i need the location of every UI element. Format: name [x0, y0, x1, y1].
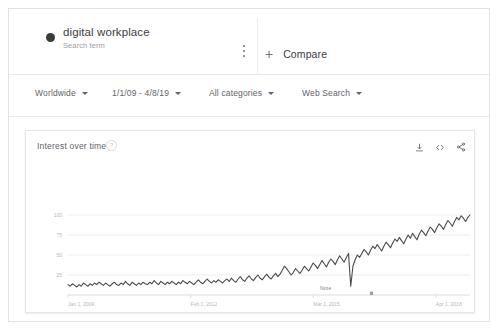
- search-term-subtitle: Search term: [63, 41, 105, 50]
- x-axis-tick-label: Apr 1, 2018: [436, 301, 462, 307]
- filter-search-type[interactable]: Web Search: [302, 88, 362, 98]
- y-axis-tick-label: 100: [54, 212, 63, 218]
- download-icon[interactable]: [415, 138, 424, 156]
- filter-date-range-label: 1/1/09 - 4/8/19: [112, 88, 169, 98]
- google-trends-page: digital workplace Search term + Compare …: [0, 0, 500, 333]
- search-term-name: digital workplace: [63, 26, 150, 38]
- chevron-down-icon: [175, 92, 181, 95]
- filter-region-label: Worldwide: [35, 88, 76, 98]
- filter-category-label: All categories: [209, 88, 262, 98]
- embed-code-icon[interactable]: [435, 138, 445, 156]
- filter-date-range[interactable]: 1/1/09 - 4/8/19: [112, 88, 181, 98]
- card-actions: [415, 138, 466, 156]
- more-vert-icon[interactable]: [237, 45, 251, 63]
- filter-search-type-label: Web Search: [302, 88, 350, 98]
- interest-over-time-card: Interest over time ?: [25, 130, 475, 313]
- compare-button[interactable]: + Compare: [265, 44, 327, 64]
- chevron-down-icon: [356, 92, 362, 95]
- search-term-card[interactable]: digital workplace Search term: [27, 17, 249, 65]
- interest-over-time-plot: 255075100Jan 1, 2009Feb 1, 2012Mar 1, 20…: [26, 161, 476, 314]
- chevron-down-icon: [268, 92, 274, 95]
- note-annotation-label: Note: [320, 285, 331, 291]
- y-axis-tick-label: 50: [56, 252, 62, 258]
- header-divider: [257, 18, 258, 74]
- filter-region[interactable]: Worldwide: [35, 88, 88, 98]
- card-header: Interest over time ?: [26, 131, 474, 161]
- filter-bar: Worldwide 1/1/09 - 4/8/19 All categories…: [9, 75, 489, 117]
- trend-line: [68, 215, 470, 287]
- x-axis-tick-label: Mar 1, 2015: [313, 301, 340, 307]
- note-marker[interactable]: [370, 292, 373, 295]
- series-color-dot: [46, 33, 55, 42]
- plus-icon: +: [265, 47, 273, 61]
- y-axis-tick-label: 25: [56, 272, 62, 278]
- share-icon[interactable]: [456, 138, 466, 156]
- x-axis-tick-label: Jan 1, 2009: [68, 301, 94, 307]
- filter-category[interactable]: All categories: [209, 88, 274, 98]
- search-term-header: digital workplace Search term + Compare: [9, 9, 489, 75]
- chevron-down-icon: [82, 92, 88, 95]
- chart-svg[interactable]: 255075100Jan 1, 2009Feb 1, 2012Mar 1, 20…: [26, 161, 476, 314]
- compare-label: Compare: [283, 48, 327, 60]
- x-axis-tick-label: Feb 1, 2012: [191, 301, 218, 307]
- help-circle-icon[interactable]: ?: [106, 140, 117, 151]
- y-axis-tick-label: 75: [56, 232, 62, 238]
- card-title: Interest over time: [37, 141, 106, 151]
